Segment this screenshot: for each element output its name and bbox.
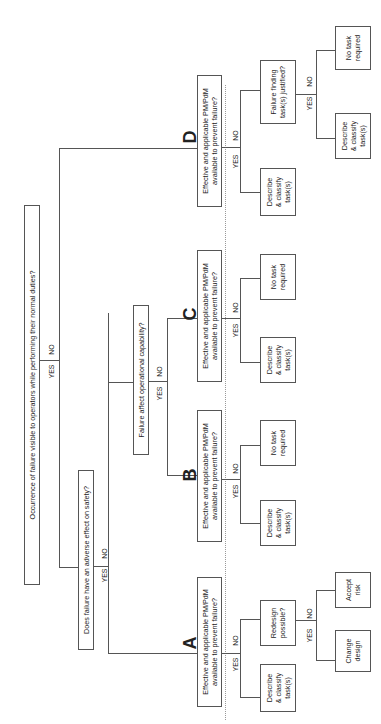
capability-yes-label: YES [156,386,163,400]
d-yes-result-text: Describe& classifytask(s) [265,177,292,207]
connector [167,318,168,475]
connector [149,381,167,382]
connector [296,94,316,95]
branch-letter-b: B [181,469,199,482]
branch-d-question-text: Effective and applicable PM/PdMavailable… [201,88,219,193]
branch-letter-d: D [181,131,199,144]
safety-no-label: NO [101,548,108,559]
d-no-question-box: Failure findingtask(s) justified? [260,60,296,124]
a-yes-result-box: Describe& classifytask(s) [260,664,296,712]
d2-no-label: NO [306,76,313,87]
root-yes-label: YES [48,364,55,378]
a-yes-result-text: Describe& classifytask(s) [265,673,292,703]
branch-letter-c: C [181,308,199,321]
b-yes-result-text: Describe& classifytask(s) [265,508,292,538]
connector [59,148,209,149]
connector [108,313,109,585]
capability-question-text: Failure affect operational capability? [137,323,146,438]
b-no-result-box: No taskrequired [260,420,296,466]
safety-yes-label: YES [101,568,108,582]
connector [108,382,133,383]
d-no-no-result-text: No taskrequired [344,35,362,61]
connector [222,318,240,319]
c-no-label: NO [232,302,239,313]
connector [316,590,317,660]
c-yes-result-box: Describe& classifytask(s) [260,337,296,383]
b-yes-label: YES [232,484,239,498]
b-yes-result-box: Describe& classifytask(s) [260,500,296,546]
a-no-question-box: Redesignpossible? [260,600,296,646]
a-no-label: NO [232,635,239,646]
root-question-box: Occurrence of failure visible to operato… [24,205,40,585]
branch-c-question-box: Effective and applicable PM/PdMavailable… [197,250,222,382]
root-question-text: Occurrence of failure visible to operato… [28,271,37,520]
d2-yes-label: YES [306,96,313,110]
safety-question-box: Does failure have an adverse effect on s… [78,470,94,650]
connector [316,50,317,138]
connector [240,619,241,697]
safety-question-text: Does failure have an adverse effect on s… [82,486,91,634]
a2-no-label: NO [306,608,313,619]
a-no-no-result-box: Acceptrisk [335,572,371,608]
d-no-no-result-box: No taskrequired [335,26,371,70]
branch-b-question-box: Effective and applicable PM/PdMavailable… [197,410,222,542]
d-no-label: NO [232,130,239,141]
branch-c-question-text: Effective and applicable PM/PdMavailable… [201,263,219,368]
a-yes-label: YES [232,657,239,671]
connector [59,567,78,568]
a-no-question-text: Redesignpossible? [269,608,287,638]
branch-a-question-text: Effective and applicable PM/PdMavailable… [201,589,219,694]
connector [222,479,240,480]
connector [240,90,241,192]
d-yes-result-box: Describe& classifytask(s) [260,168,296,216]
c-no-result-box: No taskrequired [260,254,296,300]
connector [108,653,209,654]
connector [59,360,60,567]
a-no-no-result-text: Acceptrisk [344,579,362,601]
connector [94,566,108,567]
connector [222,147,240,148]
connector [222,653,240,654]
d-no-yes-result-text: Describe& classifytask(s) [340,121,367,151]
root-no-label: NO [48,344,55,355]
connector [240,445,241,523]
connector [108,566,109,653]
c-no-result-text: No taskrequired [269,264,287,290]
a-no-yes-result-text: Changedesign [344,638,362,663]
b-no-label: NO [232,463,239,474]
a2-yes-label: YES [306,628,313,642]
connector [240,278,241,362]
branch-a-question-box: Effective and applicable PM/PdMavailable… [197,577,222,707]
capability-no-label: NO [156,366,163,377]
connector [40,360,59,361]
c-yes-label: YES [232,323,239,337]
d-yes-label: YES [232,154,239,168]
c-yes-result-text: Describe& classifytask(s) [265,345,292,375]
a-no-yes-result-box: Changedesign [335,630,371,672]
branch-d-question-box: Effective and applicable PM/PdMavailable… [197,75,222,207]
branch-b-question-text: Effective and applicable PM/PdMavailable… [201,423,219,528]
d-no-yes-result-box: Describe& classifytask(s) [335,113,371,159]
connector [296,620,316,621]
dotted-divider [225,85,226,720]
branch-letter-a: A [181,637,199,650]
capability-question-box: Failure affect operational capability? [133,305,149,455]
b-no-result-text: No taskrequired [269,430,287,456]
d-no-question-text: Failure findingtask(s) justified? [269,66,287,118]
